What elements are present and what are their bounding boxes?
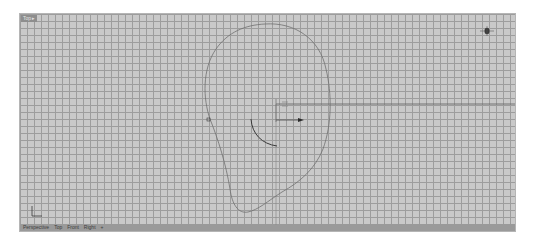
camera-icon — [480, 26, 494, 36]
arc-curve[interactable] — [251, 119, 277, 146]
tab-perspective[interactable]: Perspective — [23, 224, 49, 231]
scene-overlay — [20, 14, 515, 225]
top-viewport[interactable]: Top ▸ — [20, 14, 515, 225]
tab-right[interactable]: Right — [84, 224, 96, 231]
viewport-tabs: Perspective Top Front Right + — [20, 224, 515, 231]
viewport-title-menu[interactable]: Top ▸ — [21, 15, 37, 22]
add-viewport-tab-button[interactable]: + — [101, 224, 104, 231]
navigation-widget[interactable] — [480, 22, 494, 32]
gizmo-x-arrow-head[interactable] — [298, 118, 304, 122]
viewport-title-label: Top — [23, 15, 31, 22]
tab-top[interactable]: Top — [54, 224, 62, 231]
tab-front[interactable]: Front — [67, 224, 79, 231]
viewport-frame: Top ▸ — [19, 13, 516, 232]
caret-right-icon: ▸ — [32, 15, 35, 22]
closed-curve[interactable] — [205, 24, 330, 212]
